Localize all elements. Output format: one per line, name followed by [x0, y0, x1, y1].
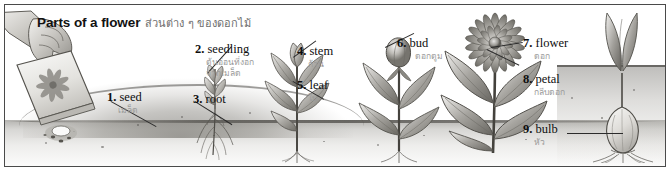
label-bulb[interactable]: 9. bulb หัว [523, 119, 558, 148]
label-petal-number: 8. [523, 72, 532, 86]
label-bud-english: bud [410, 36, 429, 50]
label-stem-thai: ก้าน [308, 59, 333, 70]
label-seed-english: seed [120, 90, 142, 104]
label-stem[interactable]: 4. stem ก้าน [297, 41, 333, 70]
label-bulb-thai: หัว [534, 137, 558, 148]
label-petal-thai: กลีบดอก [534, 87, 565, 98]
label-seed[interactable]: 1. seed เมล็ด [107, 87, 142, 116]
seed-on-ground [31, 117, 111, 157]
label-leaf-english: leaf [310, 78, 329, 92]
title-english: Parts of a flower [37, 15, 140, 30]
label-flower-thai: ดอก [534, 51, 568, 62]
label-seedling-thai-line1: ต้นอ่อนที่งอก [206, 57, 254, 68]
bulb-cross-section [581, 11, 666, 163]
label-seedling-english: seedling [208, 42, 250, 56]
label-bud[interactable]: 6. bud ดอกตูม [397, 33, 443, 62]
label-bulb-english: bulb [536, 122, 558, 136]
label-stem-english: stem [310, 44, 334, 58]
figure-title: Parts of a flowerส่วนต่าง ๆ ของดอกไม้ [37, 13, 251, 32]
label-bulb-number: 9. [523, 122, 532, 136]
label-flower-number: 7. [523, 36, 532, 50]
soil-speck [571, 97, 573, 99]
label-seed-number: 1. [107, 90, 116, 104]
label-petal-english: petal [536, 72, 560, 86]
label-seedling-thai-line2: จากเมล็ด [206, 68, 254, 79]
label-bud-number: 6. [397, 36, 406, 50]
label-flower[interactable]: 7. flower ดอก [523, 33, 568, 62]
label-bud-thai: ดอกตูม [415, 51, 443, 62]
seedling-with-roots [181, 63, 261, 163]
label-stem-number: 4. [297, 44, 306, 58]
label-leaf-number: 5. [297, 78, 306, 92]
label-seedling-number: 2. [195, 42, 204, 56]
label-leaf[interactable]: 5. leaf ใบ [297, 75, 328, 104]
soil-speck [137, 124, 139, 126]
label-root-english: root [206, 92, 226, 106]
label-leaf-thai: ใบ [308, 93, 328, 104]
label-seed-thai: เมล็ด [118, 105, 142, 116]
figure-frame: Parts of a flowerส่วนต่าง ๆ ของดอกไม้ 1.… [4, 4, 666, 167]
label-flower-english: flower [536, 36, 569, 50]
label-root-number: 3. [193, 92, 202, 106]
title-thai: ส่วนต่าง ๆ ของดอกไม้ [145, 17, 251, 30]
leader-line-bulb [567, 133, 623, 134]
label-seedling[interactable]: 2. seedling ต้นอ่อนที่งอก จากเมล็ด [195, 39, 254, 78]
label-petal[interactable]: 8. petal กลีบดอก [523, 69, 565, 98]
parts-of-a-flower-figure: Parts of a flowerส่วนต่าง ๆ ของดอกไม้ 1.… [0, 0, 670, 171]
label-root[interactable]: 3. root [193, 89, 226, 107]
